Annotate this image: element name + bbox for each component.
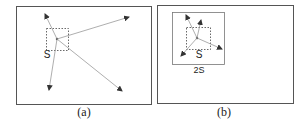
panel-b-2s-label: 2S xyxy=(187,65,211,75)
panel-b-arrow-upleft xyxy=(186,15,197,38)
panel-a-arrow-upright xyxy=(57,17,129,39)
panel-b xyxy=(158,6,294,104)
panel-a-arrow-down xyxy=(49,39,57,90)
diagram-canvas xyxy=(0,0,305,127)
panel-b-arrow-up xyxy=(197,20,201,38)
panel-b-arrow-right xyxy=(197,38,222,49)
panel-a-caption: (a) xyxy=(64,105,104,120)
panel-b-frame xyxy=(158,6,294,104)
panel-a-arrow-downright xyxy=(57,39,122,91)
panel-b-s-label: S xyxy=(189,49,209,60)
panel-b-caption: (b) xyxy=(204,105,244,120)
panel-a-s-label: S xyxy=(37,49,57,60)
